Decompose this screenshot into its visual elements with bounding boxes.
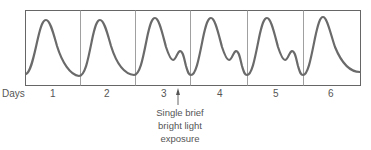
annotation-line-1: Single brief [145, 106, 215, 119]
tick-day-1: 1 [50, 88, 56, 99]
annotation-line-2: bright light [145, 119, 215, 132]
tick-day-6: 6 [328, 88, 334, 99]
tick-day-5: 5 [273, 88, 279, 99]
tick-day-4: 4 [217, 88, 223, 99]
light-exposure-annotation: Single brief bright light exposure [145, 106, 215, 145]
annotation-line-3: exposure [145, 132, 215, 145]
light-exposure-arrow [176, 88, 180, 105]
axis-label-days: Days [2, 88, 25, 99]
tick-day-2: 2 [104, 88, 110, 99]
rhythm-curve [26, 17, 360, 76]
tick-day-3: 3 [161, 88, 167, 99]
